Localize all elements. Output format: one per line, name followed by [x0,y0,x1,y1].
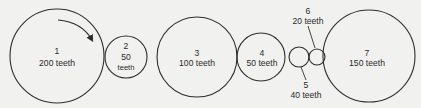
gear-2-teeth-count: 50 [121,52,131,62]
leader-line-gear-5 [301,67,306,80]
gear-7-number: 7 [365,48,370,58]
gear-1-number: 1 [55,46,60,56]
gear-6-number: 6 [306,6,311,16]
clockwise-arrow-icon [58,20,92,40]
gear-1-teeth: 200 teeth [39,58,75,68]
gear-5 [289,47,309,67]
gear-5-teeth: 40 teeth [290,90,321,100]
gear-2-teeth-word: teeth [118,63,135,72]
gear-1 [10,9,104,103]
gear-4-teeth: 50 teeth [246,58,277,68]
gear-7-teeth: 150 teeth [349,58,385,68]
gear-3-number: 3 [195,48,200,58]
gear-4-number: 4 [260,48,265,58]
leader-line-gear-6 [308,26,315,48]
gear-6-teeth: 20 teeth [292,16,323,26]
gear-3-teeth: 100 teeth [179,58,215,68]
gear-train-diagram: 1 200 teeth 2 50 teeth 3 100 teeth 4 50 … [0,0,421,108]
gear-5-number: 5 [304,80,309,90]
gear-2-number: 2 [124,41,129,51]
